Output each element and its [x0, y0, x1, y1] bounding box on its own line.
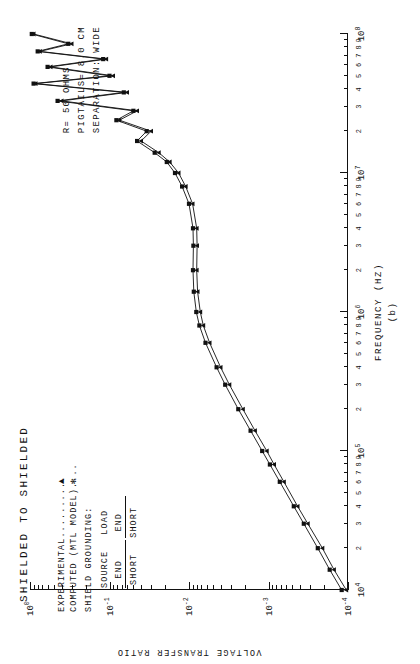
x-axis-title: FREQUENCY (HZ)	[374, 263, 384, 361]
y-axis-minor-tick	[276, 586, 277, 591]
x-axis-minor-tick	[344, 64, 349, 65]
y-axis-minor-tick	[207, 586, 208, 591]
x-axis-minor-label: 3	[355, 244, 363, 248]
x-axis-minor-label: 7	[355, 331, 363, 335]
data-point-asterisk	[180, 184, 184, 188]
data-point-triangle	[264, 449, 269, 454]
data-point-asterisk	[316, 546, 320, 550]
x-axis-minor-tick	[344, 353, 349, 354]
x-axis-minor-tick	[344, 75, 349, 76]
y-axis-minor-tick	[281, 586, 282, 591]
data-point-asterisk	[278, 480, 282, 484]
y-axis-minor-tick	[127, 586, 128, 591]
data-point-asterisk	[191, 244, 195, 248]
x-axis-minor-tick	[344, 88, 349, 89]
x-axis-decade-label: 104	[355, 583, 367, 598]
y-axis-minor-tick	[48, 586, 49, 591]
y-axis-minor-tick	[292, 586, 293, 591]
data-point-triangle	[331, 567, 336, 572]
x-axis-minor-label: 3	[355, 383, 363, 387]
x-axis-minor-tick	[344, 178, 349, 179]
x-axis-minor-tick	[344, 408, 349, 409]
x-axis-minor-tick	[344, 269, 349, 270]
x-axis-minor-tick	[344, 523, 349, 524]
data-point-asterisk	[302, 522, 306, 526]
y-axis-minor-tick	[113, 586, 114, 591]
x-axis-minor-label: 7	[355, 470, 363, 474]
data-point-asterisk	[32, 82, 36, 86]
x-axis-minor-label: 5	[355, 352, 363, 356]
data-point-triangle	[240, 407, 245, 412]
data-point-asterisk	[101, 57, 105, 61]
x-axis-minor-tick	[344, 39, 349, 40]
x-axis-minor-label: 2	[355, 268, 363, 272]
x-axis-minor-tick	[344, 194, 349, 195]
y-axis-minor-tick	[193, 586, 194, 591]
y-axis-minor-tick	[34, 586, 35, 591]
data-point-asterisk	[122, 90, 126, 94]
y-axis-minor-tick	[54, 586, 55, 591]
data-point-triangle	[252, 428, 257, 433]
x-axis-minor-label: 3	[355, 522, 363, 526]
x-axis-minor-label: 8	[355, 45, 363, 49]
x-axis-minor-label: 6	[355, 480, 363, 484]
y-axis-minor-tick	[72, 586, 73, 591]
x-axis-minor-label: 7	[355, 192, 363, 196]
data-point-asterisk	[187, 202, 191, 206]
x-axis-minor-tick	[344, 472, 349, 473]
x-axis-major-tick	[340, 33, 348, 34]
x-axis-decade-label: 107	[355, 166, 367, 181]
y-axis-minor-tick	[62, 586, 63, 591]
y-axis-minor-tick	[117, 586, 118, 591]
data-point-asterisk	[56, 99, 60, 103]
x-axis-minor-tick	[344, 492, 349, 493]
x-axis-minor-label: 7	[355, 53, 363, 57]
x-axis-minor-tick	[344, 317, 349, 318]
x-axis-minor-label: 2	[355, 407, 363, 411]
x-axis-decade-label: 106	[355, 305, 367, 320]
y-axis-minor-tick	[42, 586, 43, 591]
y-axis-major-tick	[348, 582, 349, 590]
data-point-asterisk	[203, 341, 207, 345]
data-point-asterisk	[46, 65, 50, 69]
x-axis-minor-label: 2	[355, 546, 363, 550]
x-axis-minor-label: 5	[355, 213, 363, 217]
x-axis-minor-label: 6	[355, 63, 363, 67]
rotated-figure: SHIELDED TO SHIELDED EXPERIMENTAL.......…	[0, 0, 420, 664]
x-axis-minor-tick	[344, 106, 349, 107]
y-axis-major-tick	[189, 582, 190, 590]
data-point-asterisk	[173, 171, 177, 175]
data-point-asterisk	[131, 109, 135, 113]
data-point-asterisk	[165, 160, 169, 164]
data-point-asterisk	[236, 407, 240, 411]
x-axis-minor-tick	[344, 463, 349, 464]
data-point-triangle	[272, 462, 277, 467]
x-axis-minor-tick	[344, 547, 349, 548]
y-axis-decade-label: 10-3	[263, 597, 275, 616]
data-point-asterisk	[215, 365, 219, 369]
data-point-triangle	[281, 479, 286, 484]
y-axis-minor-tick	[300, 586, 301, 591]
data-point-asterisk	[30, 32, 34, 36]
data-point-asterisk	[194, 310, 198, 314]
x-axis-major-tick	[340, 172, 348, 173]
data-point-asterisk	[197, 323, 201, 327]
data-point-asterisk	[223, 383, 227, 387]
y-axis-minor-tick	[197, 586, 198, 591]
y-axis-minor-tick	[38, 586, 39, 591]
y-axis-minor-tick	[221, 586, 222, 591]
data-point-asterisk	[328, 568, 332, 572]
x-axis-minor-label: 3	[355, 105, 363, 109]
data-point-asterisk	[292, 504, 296, 508]
x-axis-minor-tick	[344, 46, 349, 47]
y-axis-minor-tick	[201, 586, 202, 591]
x-axis-minor-label: 8	[355, 323, 363, 327]
x-axis-major-tick	[340, 311, 348, 312]
x-axis-minor-label: 4	[355, 365, 363, 369]
x-axis-minor-tick	[344, 342, 349, 343]
x-axis-minor-tick	[344, 333, 349, 334]
y-axis-minor-tick	[324, 586, 325, 591]
y-axis-decade-label: 10-2	[183, 597, 195, 616]
x-axis-minor-tick	[344, 505, 349, 506]
y-axis-major-tick	[110, 582, 111, 590]
